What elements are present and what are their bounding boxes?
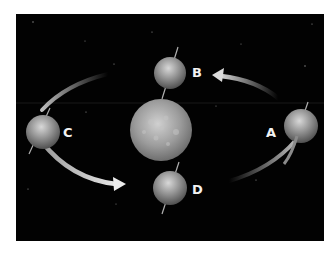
earth-position-c [26,115,60,149]
arrowhead-b [212,68,224,82]
arrow-a-to-b [221,76,278,98]
position-label-b: B [192,66,202,79]
position-label-a: A [266,126,276,139]
arrow-c-to-d [42,142,116,184]
sun [130,99,192,161]
earth-position-b [154,57,186,89]
orbit-diagram: B C A D [16,14,324,241]
position-label-d: D [192,183,203,196]
earth-position-d [153,171,187,205]
earth-position-a [284,109,318,143]
position-label-c: C [63,126,73,139]
orbit-arc-top-left [42,74,108,110]
arrowhead-d [113,177,126,191]
